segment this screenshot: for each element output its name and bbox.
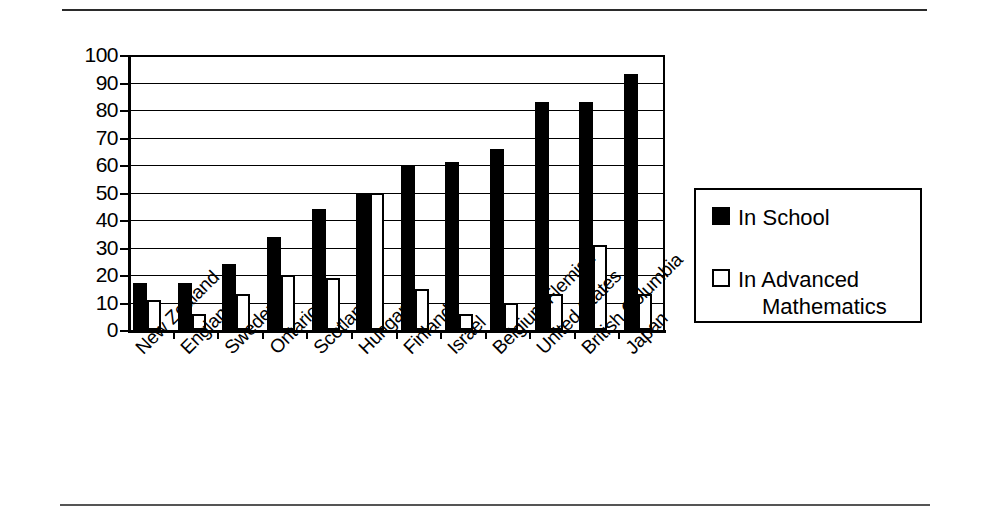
bar-chart-figure: 1009080706050403020100 New ZealandEnglan… <box>0 0 989 513</box>
y-axis-tick-label-40: 40 <box>62 209 118 230</box>
x-tick <box>529 330 531 339</box>
bar-in-advanced-mathematics <box>281 275 295 330</box>
bar-group <box>579 55 607 330</box>
y-axis-tick-label-0: 0 <box>62 319 118 340</box>
bar-in-advanced-mathematics <box>236 294 250 330</box>
bar-in-advanced-mathematics <box>549 294 563 330</box>
bar-in-advanced-mathematics <box>326 278 340 330</box>
bar-in-school <box>178 283 192 330</box>
y-axis-tick-label-90: 90 <box>62 72 118 93</box>
y-axis-tick-label-70: 70 <box>62 127 118 148</box>
page-rule-bottom <box>60 504 930 506</box>
bar-in-school <box>401 165 415 330</box>
x-tick <box>440 330 442 339</box>
x-tick <box>396 330 398 339</box>
bar-in-advanced-mathematics <box>504 303 518 331</box>
x-tick <box>173 330 175 339</box>
bar-in-advanced-mathematics <box>459 314 473 331</box>
x-tick <box>306 330 308 339</box>
bar-group <box>490 55 518 330</box>
legend-label-line-1: In Advanced <box>738 267 859 292</box>
bar-in-advanced-mathematics <box>593 245 607 330</box>
y-tick-0 <box>120 330 129 332</box>
y-axis-tick-label-10: 10 <box>62 292 118 313</box>
bar-in-school <box>624 74 638 330</box>
bar-group <box>222 55 250 330</box>
legend-item-in-school: In School <box>712 204 830 231</box>
bar-in-advanced-mathematics <box>147 300 161 330</box>
y-axis-tick-label-100: 100 <box>62 44 118 65</box>
bar-in-advanced-mathematics <box>370 193 384 331</box>
y-axis-tick-label-30: 30 <box>62 237 118 258</box>
bar-in-school <box>133 283 147 330</box>
bar-group <box>312 55 340 330</box>
bar-in-school <box>356 193 370 331</box>
legend-swatch-hollow-square-icon <box>712 269 730 287</box>
x-tick <box>574 330 576 339</box>
bars-layer <box>128 55 663 330</box>
y-axis-tick-label-60: 60 <box>62 154 118 175</box>
bar-group <box>445 55 473 330</box>
x-tick <box>351 330 353 339</box>
bar-in-advanced-mathematics <box>192 314 206 331</box>
legend-swatch-filled-square-icon <box>712 207 730 225</box>
bar-group <box>356 55 384 330</box>
bar-group <box>624 55 652 330</box>
x-tick <box>217 330 219 339</box>
y-axis-tick-label-80: 80 <box>62 99 118 120</box>
legend-label-in-advanced-mathematics: In AdvancedMathematics <box>738 266 887 320</box>
bar-group <box>133 55 161 330</box>
legend-item-in-advanced-mathematics: In AdvancedMathematics <box>712 266 887 320</box>
legend-label-in-school: In School <box>738 204 830 231</box>
legend-label-line-2: Mathematics <box>738 293 887 320</box>
chart-legend: In School In AdvancedMathematics <box>694 188 922 323</box>
x-tick <box>618 330 620 339</box>
bar-in-school <box>490 149 504 331</box>
x-tick <box>485 330 487 339</box>
bar-in-school <box>312 209 326 330</box>
y-axis-label-group: 1009080706050403020100 <box>58 0 118 400</box>
bar-in-school <box>535 102 549 330</box>
y-axis-tick-label-20: 20 <box>62 264 118 285</box>
bar-group <box>178 55 206 330</box>
x-tick <box>262 330 264 339</box>
y-axis-tick-label-50: 50 <box>62 182 118 203</box>
bar-group <box>401 55 429 330</box>
bar-in-advanced-mathematics <box>638 294 652 330</box>
bar-group <box>267 55 295 330</box>
bar-in-school <box>222 264 236 330</box>
bar-in-school <box>267 237 281 331</box>
bar-group <box>535 55 563 330</box>
bar-in-school <box>579 102 593 330</box>
bar-in-advanced-mathematics <box>415 289 429 330</box>
bar-in-school <box>445 162 459 330</box>
